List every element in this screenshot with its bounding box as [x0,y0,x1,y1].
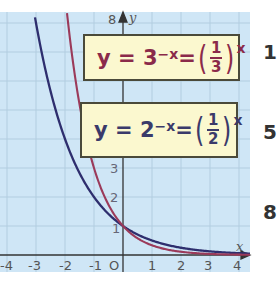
formula-lhs: y = 2 [94,118,155,142]
origin-label: O [109,258,119,273]
outer-exponent: x [236,40,245,56]
left-paren: ( [195,113,204,147]
tick-label-xm3: -3 [28,258,41,273]
tick-label-xm1: -1 [89,258,102,273]
side-mark-3: 8 [263,200,277,224]
y-axis-label: y [128,10,137,25]
denominator: 2 [208,132,218,147]
formula-box-2-pow-neg-x: y = 2−x =(12)x [80,102,238,158]
fraction: 13 [210,41,222,75]
numerator: 1 [211,41,221,56]
side-mark-2: 5 [263,120,277,144]
tick-label-y2: 2 [110,190,118,205]
formula-exponent: −x [155,118,176,134]
denominator: 3 [211,60,221,75]
formula-equals: = [175,118,193,142]
formula-lhs: y = 3 [97,46,158,70]
side-mark-1: 1 [263,40,277,64]
tick-label-xm2: -2 [59,258,72,273]
outer-exponent: x [233,112,242,128]
tick-label-x3: 3 [204,258,212,273]
formula-equals: = [178,46,196,70]
tick-label-xm4: -4 [0,258,13,273]
left-paren: ( [198,41,207,75]
tick-label-y3: 3 [110,161,118,176]
fraction: 12 [207,113,219,147]
tick-label-8: 8 [108,12,116,27]
x-axis-label: x [236,239,244,254]
tick-label-x1: 1 [148,258,156,273]
right-paren: ) [222,113,231,147]
numerator: 1 [208,113,218,128]
formula-box-3-pow-neg-x: y = 3−x =(13)x [83,34,240,81]
tick-label-x2: 2 [177,258,185,273]
formula-exponent: −x [158,46,179,62]
right-paren: ) [225,41,234,75]
tick-label-y1: 1 [112,221,120,236]
tick-label-x4: 4 [233,258,241,273]
